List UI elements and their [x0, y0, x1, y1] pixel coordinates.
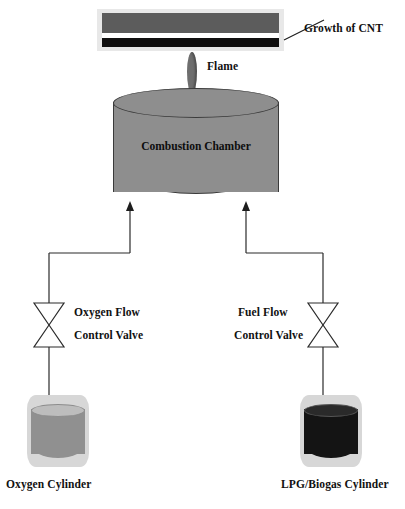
- oxygen-pipe: [49, 208, 130, 395]
- oxygen-valve-label-line2: Control Valve: [74, 329, 143, 341]
- substrate-plate: [102, 13, 279, 33]
- lpg-cylinder-label: LPG/Biogas Cylinder: [281, 478, 389, 490]
- oxygen-cylinder-foot: [31, 444, 85, 458]
- oxygen-valve-label-line1: Oxygen Flow: [74, 306, 140, 318]
- fuel-valve-label-line1: Fuel Flow: [238, 306, 288, 318]
- lpg-cylinder-body: [304, 404, 358, 458]
- fuel-valve-label-line2: Control Valve: [234, 329, 303, 341]
- lpg-cylinder-cap: [304, 404, 358, 417]
- oxygen-cylinder: [27, 395, 89, 467]
- fuel-flow-control-valve-icon[interactable]: [308, 303, 338, 347]
- oxygen-cylinder-cap: [31, 404, 85, 417]
- combustion-chamber: Combustion Chamber: [113, 88, 279, 206]
- flame-label: Flame: [207, 60, 238, 72]
- oxygen-cylinder-label: Oxygen Cylinder: [6, 478, 92, 490]
- chamber-top-ellipse: [113, 88, 279, 118]
- flame-synthesis-diagram: Growth of CNT Flame Combustion Chamber: [0, 0, 405, 509]
- fuel-pipe: [246, 208, 323, 395]
- oxygen-cylinder-body: [31, 404, 85, 458]
- lpg-biogas-cylinder: [300, 395, 362, 467]
- lpg-cylinder-foot: [304, 444, 358, 458]
- cnt-growth-layer: [102, 38, 279, 47]
- combustion-chamber-label: Combustion Chamber: [113, 140, 279, 152]
- oxygen-flow-control-valve-icon[interactable]: [34, 303, 64, 347]
- growth-of-cnt-label: Growth of CNT: [304, 22, 383, 34]
- substrate-assembly: [97, 9, 284, 51]
